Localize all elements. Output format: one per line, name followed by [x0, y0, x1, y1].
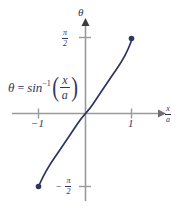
y-axis-arrowhead [82, 18, 90, 26]
x-axis-label: x a [165, 105, 171, 124]
equation-fraction: x a [60, 74, 70, 101]
equation-sin-function: sin [27, 81, 42, 94]
x-axis-label-denominator: a [165, 116, 171, 124]
curve-endpoint-upper [129, 36, 135, 42]
negative-pi-over-two-numerator: π [65, 177, 71, 185]
plot-canvas [0, 0, 183, 211]
equation-theta: θ [8, 81, 14, 94]
equation-fraction-numerator: x [60, 74, 69, 86]
x-tick-label-positive-one: 1 [128, 118, 134, 129]
equation-inverse-exponent: −1 [42, 80, 51, 88]
negative-pi-over-two-denominator: 2 [65, 188, 71, 196]
x-axis-label-fraction: x a [165, 105, 171, 124]
y-tick-label-negative-pi-over-two: − π 2 [56, 177, 71, 196]
x-axis-label-numerator: x [165, 105, 171, 113]
y-tick-label-pi-over-two: π 2 [62, 29, 68, 48]
curve-endpoint-lower [36, 184, 42, 190]
arcsine-function-figure: θ x a −1 1 π 2 − π 2 θ = sin −1 ( [0, 0, 183, 211]
negative-sign: − [56, 182, 62, 192]
equation-open-paren: ( [52, 76, 59, 99]
x-tick-label-negative-one: −1 [31, 118, 44, 129]
y-axis-label: θ [78, 7, 83, 18]
negative-pi-over-two-fraction: π 2 [65, 177, 71, 196]
equation-equals-sign: = [17, 82, 24, 94]
equation-close-paren: ) [71, 76, 78, 99]
equation-annotation: θ = sin −1 ( x a ) [8, 74, 79, 101]
equation-fraction-denominator: a [60, 89, 70, 101]
pi-over-two-fraction: π 2 [62, 29, 68, 48]
pi-over-two-denominator: 2 [62, 40, 68, 48]
pi-over-two-numerator: π [62, 29, 68, 37]
